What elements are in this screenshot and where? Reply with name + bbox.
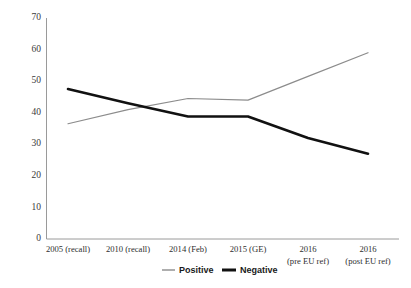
- x-tick-label: 2014 (Feb): [169, 244, 207, 254]
- y-tick-label: 50: [32, 75, 42, 85]
- x-tick-label: (pre EU ref): [287, 256, 329, 266]
- y-tick-label: 60: [32, 44, 42, 54]
- y-tick-labels: 70 60 50 40 30 20 10 0: [32, 12, 42, 243]
- y-tick-label: 70: [32, 12, 42, 22]
- y-tick-label: 20: [32, 170, 42, 180]
- y-tick-label: 40: [32, 107, 42, 117]
- x-tick-label: (post EU ref): [345, 256, 390, 266]
- y-tick-label: 10: [32, 202, 42, 212]
- x-tick-label: 2015 (GE): [230, 244, 267, 254]
- legend-label-positive: Positive: [179, 265, 214, 275]
- x-tick-label: 2010 (recall): [106, 244, 150, 254]
- chart-legend: Positive Negative: [162, 265, 278, 275]
- legend-label-negative: Negative: [240, 265, 278, 275]
- x-tick-label: 2016: [359, 244, 377, 254]
- x-tick-label: 2005 (recall): [46, 244, 90, 254]
- y-tick-label: 0: [36, 233, 41, 243]
- x-tick-labels: 2005 (recall)2010 (recall)2014 (Feb)2015…: [46, 244, 391, 266]
- series-line-positive: [68, 53, 368, 124]
- x-tick-label: 2016: [299, 244, 317, 254]
- y-tick-label: 30: [32, 138, 42, 148]
- chart-canvas: 70 60 50 40 30 20 10 0 2005 (recall)2010…: [0, 0, 411, 288]
- line-chart: 70 60 50 40 30 20 10 0 2005 (recall)2010…: [0, 0, 411, 288]
